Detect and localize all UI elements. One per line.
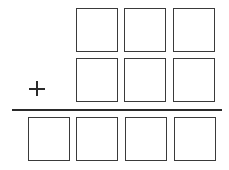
sum-digit-box-tens[interactable] bbox=[125, 117, 167, 161]
sum-digit-box-thousands[interactable] bbox=[28, 117, 70, 161]
addend1-digit-box-tens[interactable] bbox=[124, 8, 166, 52]
addend1-digit-box-hundreds[interactable] bbox=[76, 8, 118, 52]
addend2-digit-box-hundreds[interactable] bbox=[76, 58, 118, 102]
addend1-digit-box-ones[interactable] bbox=[173, 8, 215, 52]
addend2-digit-box-ones[interactable] bbox=[173, 58, 215, 102]
sum-digit-box-hundreds[interactable] bbox=[76, 117, 118, 161]
addend2-digit-box-tens[interactable] bbox=[124, 58, 166, 102]
sum-digit-box-ones[interactable] bbox=[174, 117, 216, 161]
sum-divider-line bbox=[12, 109, 222, 111]
plus-sign-icon bbox=[29, 80, 47, 98]
